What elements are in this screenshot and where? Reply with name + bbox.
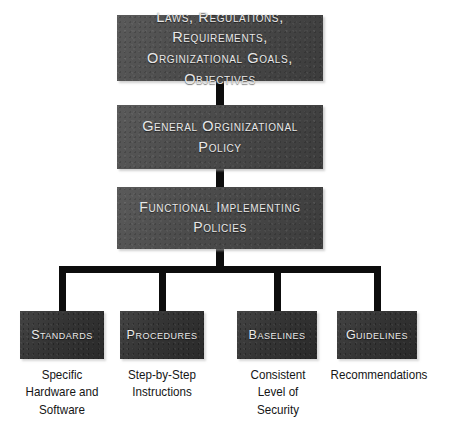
caption-line: Step-by-Step (114, 366, 210, 383)
caption-line: Hardware and (14, 383, 110, 400)
caption-line: Instructions (114, 383, 210, 400)
node-guidelines: Guidelines (337, 311, 417, 359)
caption-standards: Specific Hardware and Software (14, 366, 110, 418)
connector-bus-to-procedures (159, 266, 166, 313)
connector-general-policy-to-functional-policies (216, 167, 224, 189)
policy-hierarchy-diagram: Laws, Regulations, Requirements,Orginiza… (0, 0, 454, 439)
node-label-line-1: Laws, Regulations, Requirements, (156, 9, 284, 46)
node-label: Functional Implementing Policies (117, 198, 323, 238)
caption-line: Level of (230, 383, 326, 400)
node-general-orginizational-policy: General Orginizational Policy (117, 105, 323, 169)
node-label: Procedures (127, 328, 198, 342)
caption-baselines: Consistent Level of Security (230, 366, 326, 418)
node-procedures: Procedures (120, 311, 204, 359)
connector-bus-to-baselines (274, 266, 281, 313)
caption-line: Specific (14, 366, 110, 383)
node-baselines: Baselines (237, 311, 317, 359)
node-functional-implementing-policies: Functional Implementing Policies (117, 187, 323, 249)
connector-bus-to-standards (59, 266, 66, 313)
caption-line: Consistent (230, 366, 326, 383)
caption-line: Software (14, 401, 110, 418)
node-standards: Standards (20, 311, 104, 359)
node-label-line-2: Orginizational Goals, Objectives (147, 50, 293, 87)
node-laws-regulations-requirements: Laws, Regulations, Requirements,Orginiza… (117, 15, 323, 81)
caption-procedures: Step-by-Step Instructions (114, 366, 210, 401)
caption-guidelines: Recommendations (327, 366, 432, 383)
node-label: Baselines (249, 328, 306, 342)
connector-bus-to-guidelines (374, 266, 381, 313)
node-label: General Orginizational Policy (117, 116, 323, 157)
node-label: Standards (31, 328, 93, 342)
caption-line: Recommendations (327, 366, 432, 383)
node-label: Laws, Regulations, Requirements,Orginiza… (117, 7, 323, 89)
connector-horizontal-bus (62, 266, 378, 273)
caption-line: Security (230, 401, 326, 418)
node-label: Guidelines (346, 328, 408, 342)
